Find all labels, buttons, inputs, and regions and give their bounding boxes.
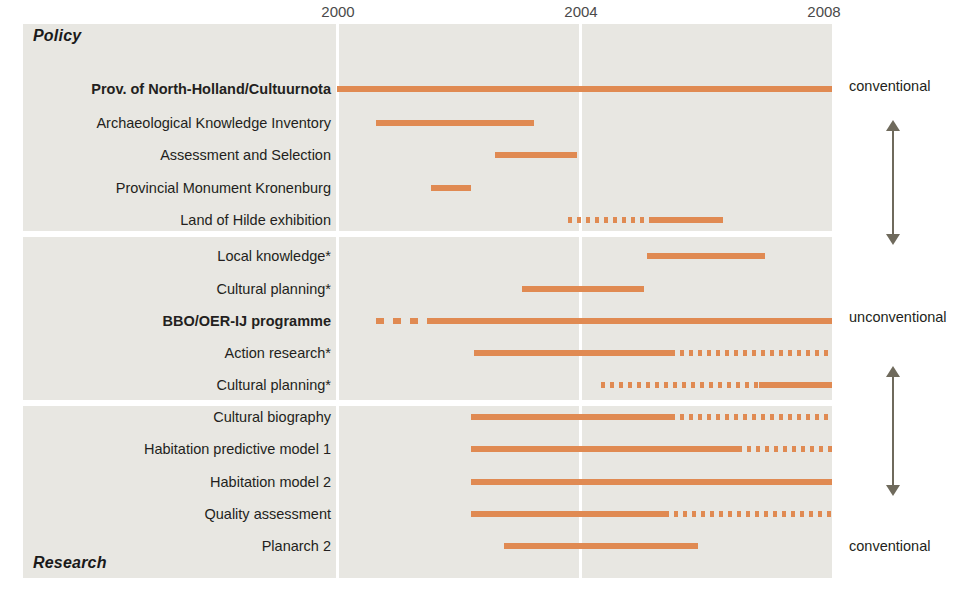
bar-segment-solid [376,120,534,126]
timeline-row: Provincial Monument Kronenburg [0,173,979,204]
bar-segment-dotted [568,217,653,223]
bar-segment-dashed [376,318,428,324]
timeline-row: Local knowledge* [0,241,979,272]
bar-segment-dotted [738,446,832,452]
x-axis-tick-labels: 200020042008 [0,0,979,24]
timeline-row: Prov. of North-Holland/Cultuurnota [0,74,979,105]
row-label: Quality assessment [204,499,331,530]
bar-segment-solid [471,446,738,452]
timeline-row: Assessment and Selection [0,140,979,171]
annotation-conventional-bottom: conventional [849,538,930,554]
bar-segment-solid [471,414,671,420]
bar-segment-solid [522,286,644,292]
bar-segment-solid [571,86,832,92]
bar-segment-solid [759,382,832,388]
gantt-timeline-chart: 200020042008 Policy Research Prov. of No… [0,0,979,596]
timeline-row: Quality assessment [0,499,979,530]
annotation-unconventional-mid: unconventional [849,309,947,325]
row-label: Planarch 2 [262,531,331,562]
conventional-unconventional-arrow-upper [886,120,900,245]
row-label: Archaeological Knowledge Inventory [96,108,331,139]
row-label: Cultural biography [213,402,331,433]
bar-segment-dotted [601,382,759,388]
arrow-head-up-icon [886,120,900,131]
row-label: Land of Hilde exhibition [180,205,331,236]
row-label: Prov. of North-Holland/Cultuurnota [91,74,331,105]
row-label: BBO/OER-IJ programme [163,306,331,337]
bar-segment-solid [471,479,832,485]
row-label: Provincial Monument Kronenburg [116,173,331,204]
annotation-conventional-top: conventional [849,78,930,94]
row-label: Habitation model 2 [210,467,331,498]
timeline-row: Cultural planning* [0,370,979,401]
bar-segment-solid [471,511,665,517]
bar-segment-solid [504,543,698,549]
timeline-row: Cultural planning* [0,274,979,305]
row-label: Local knowledge* [217,241,331,272]
bar-segment-solid [428,318,832,324]
bar-segment-solid [495,152,577,158]
x-tick-2004: 2004 [564,3,597,20]
row-label: Action research* [225,338,331,369]
section-caption-policy: Policy [33,27,81,45]
arrow-shaft [892,375,894,487]
bar-segment-solid [653,217,723,223]
arrow-head-down-icon [886,234,900,245]
bar-segment-dotted [665,511,832,517]
bar-segment-dotted [671,350,832,356]
arrow-head-down-icon [886,485,900,496]
bar-segment-solid [647,253,765,259]
arrow-shaft [892,129,894,236]
bar-segment-solid [474,350,671,356]
timeline-row: Planarch 2 [0,531,979,562]
row-label: Cultural planning* [217,370,331,401]
x-tick-2000: 2000 [321,3,354,20]
bar-segment-solid [431,185,470,191]
bar-segment-dotted [671,414,832,420]
unconventional-conventional-arrow-lower [886,366,900,496]
row-label: Cultural planning* [217,274,331,305]
timeline-row: Action research* [0,338,979,369]
timeline-row: Archaeological Knowledge Inventory [0,108,979,139]
timeline-row: Land of Hilde exhibition [0,205,979,236]
timeline-row: BBO/OER-IJ programme [0,306,979,337]
row-label: Habitation predictive model 1 [144,434,331,465]
x-tick-2008: 2008 [807,3,840,20]
timeline-row: Habitation predictive model 1 [0,434,979,465]
arrow-head-up-icon [886,366,900,377]
row-label: Assessment and Selection [160,140,331,171]
timeline-row: Cultural biography [0,402,979,433]
timeline-row: Habitation model 2 [0,467,979,498]
bar-segment-solid [337,86,574,92]
